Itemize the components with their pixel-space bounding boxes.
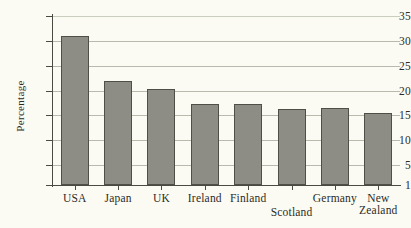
y-tick-label-20: 20 xyxy=(367,85,411,97)
x-tick-3 xyxy=(205,185,206,190)
y-tick-1 xyxy=(46,185,53,186)
y-tick-30 xyxy=(46,41,53,42)
gridline-25 xyxy=(53,66,400,67)
y-tick-label-25: 25 xyxy=(367,60,411,72)
bar-chart-figure: Percentage 15101520253035USAJapanUKIrela… xyxy=(0,0,411,228)
x-tick-0 xyxy=(75,185,76,190)
y-tick-label-1: 1 xyxy=(367,179,411,191)
x-axis-label-germany: Germany xyxy=(313,192,357,204)
bar-finland xyxy=(234,104,262,185)
x-tick-7 xyxy=(378,185,379,190)
bar-japan xyxy=(104,81,132,185)
x-axis-label-line1: New xyxy=(367,192,389,204)
y-tick-label-5: 5 xyxy=(367,159,411,171)
bar-new-zealand xyxy=(364,113,392,185)
y-axis-title: Percentage xyxy=(14,60,26,152)
bar-ireland xyxy=(191,104,219,185)
x-axis-label-new-zealand: NewZealand xyxy=(359,192,397,216)
plot-area xyxy=(53,16,400,185)
y-tick-25 xyxy=(46,66,53,67)
y-tick-15 xyxy=(46,115,53,116)
x-axis-label-uk: UK xyxy=(153,192,170,204)
bar-scotland xyxy=(278,109,306,185)
y-tick-label-15: 15 xyxy=(367,109,411,121)
y-tick-label-10: 10 xyxy=(367,134,411,146)
x-axis-label-usa: USA xyxy=(63,192,87,204)
x-axis-label-japan: Japan xyxy=(104,192,131,204)
y-tick-5 xyxy=(46,165,53,166)
y-tick-20 xyxy=(46,91,53,92)
gridline-35 xyxy=(53,16,400,17)
x-tick-5 xyxy=(292,185,293,190)
y-tick-35 xyxy=(46,16,53,17)
y-tick-10 xyxy=(46,140,53,141)
x-axis-label-finland: Finland xyxy=(230,192,267,204)
x-axis-label-ireland: Ireland xyxy=(188,192,222,204)
x-axis-label-line2: Zealand xyxy=(359,204,397,216)
y-axis-title-container: Percentage xyxy=(0,0,46,228)
gridline-30 xyxy=(53,41,400,42)
x-tick-2 xyxy=(161,185,162,190)
bar-uk xyxy=(147,89,175,185)
y-tick-label-35: 35 xyxy=(367,10,411,22)
x-tick-1 xyxy=(118,185,119,190)
x-tick-6 xyxy=(335,185,336,190)
bar-germany xyxy=(321,108,349,185)
y-tick-label-30: 30 xyxy=(367,35,411,47)
bar-usa xyxy=(61,36,89,185)
x-tick-4 xyxy=(248,185,249,190)
x-axis-label-scotland: Scotland xyxy=(271,206,313,218)
x-axis-line xyxy=(52,185,401,186)
